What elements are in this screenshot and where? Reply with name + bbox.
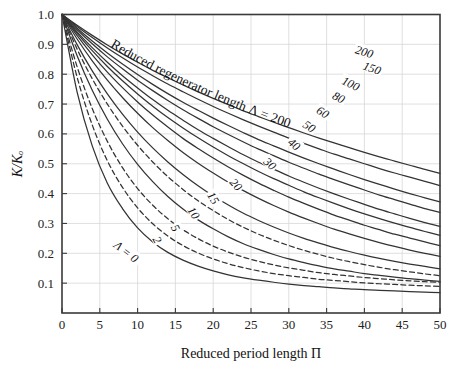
y-tick-label: 1.0 [38, 7, 54, 22]
x-tick-label: 0 [59, 317, 66, 332]
y-tick-label: 0.3 [38, 216, 54, 231]
x-tick-label: 25 [245, 317, 258, 332]
y-tick-label: 0.5 [38, 156, 54, 171]
x-tick-label: 30 [282, 317, 295, 332]
y-tick-label: 0.7 [38, 97, 55, 112]
x-tick-label: 15 [169, 317, 182, 332]
kk0-vs-period-length-chart: 05101520253035404550 0.10.20.30.40.50.60… [0, 0, 456, 367]
y-tick-label: 0.9 [38, 37, 54, 52]
x-tick-label: 35 [320, 317, 333, 332]
y-axis-title: K/Kₒ [10, 151, 25, 179]
x-tick-label: 50 [434, 317, 447, 332]
y-tick-label: 0.6 [38, 126, 55, 141]
x-tick-label: 5 [97, 317, 104, 332]
y-tick-label: 0.2 [38, 246, 54, 261]
x-tick-label: 10 [131, 317, 144, 332]
x-tick-label: 40 [358, 317, 371, 332]
x-axis-title: Reduced period length Π [181, 346, 321, 361]
y-tick-label: 0.8 [38, 67, 54, 82]
chart-container: 05101520253035404550 0.10.20.30.40.50.60… [0, 0, 456, 367]
x-tick-label: 20 [207, 317, 220, 332]
y-tick-label: 0.4 [38, 186, 55, 201]
x-tick-label: 45 [396, 317, 409, 332]
y-tick-label: 0.1 [38, 276, 54, 291]
